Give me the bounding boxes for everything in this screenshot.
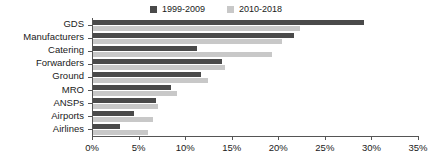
x-axis-tick	[418, 136, 419, 140]
bar-series1	[93, 33, 294, 38]
bar-series2	[93, 65, 225, 70]
category-label: Catering	[0, 45, 84, 55]
x-axis-line	[92, 136, 418, 137]
bar-series1	[93, 111, 134, 116]
chart-legend: 1999-20092010-2018	[0, 2, 432, 16]
category-label: Airports	[0, 111, 84, 121]
bar-series2	[93, 39, 282, 44]
bar-group	[93, 98, 419, 109]
x-axis-tick	[139, 136, 140, 140]
y-axis-tick	[88, 38, 92, 39]
x-axis-tick	[371, 136, 372, 140]
bar-series2	[93, 117, 153, 122]
legend-label: 1999-2009	[162, 5, 205, 14]
y-axis-tick	[88, 51, 92, 52]
category-axis-labels: GDSManufacturersCateringForwardersGround…	[0, 18, 88, 136]
bar-series2	[93, 26, 300, 31]
x-axis-tick-label: 15%	[222, 142, 241, 153]
x-axis-tick-label: 30%	[362, 142, 381, 153]
bar-group	[93, 46, 419, 57]
category-label: Airlines	[0, 124, 84, 134]
legend-swatch-icon	[227, 6, 234, 13]
bar-group	[93, 59, 419, 70]
x-axis-tick	[185, 136, 186, 140]
x-axis-tick	[232, 136, 233, 140]
bar-group	[93, 20, 419, 31]
x-axis-tick-label: 35%	[408, 142, 427, 153]
bar-chart: 1999-20092010-2018 GDSManufacturersCater…	[0, 0, 432, 165]
bar-series2	[93, 78, 208, 83]
category-label: ANSPs	[0, 98, 84, 108]
bar-series2	[93, 104, 158, 109]
bar-group	[93, 85, 419, 96]
bar-group	[93, 72, 419, 83]
bar-series1	[93, 46, 197, 51]
bar-group	[93, 124, 419, 135]
x-axis-tick	[92, 136, 93, 140]
plot-area: 0%5%10%15%20%25%30%35%	[92, 18, 418, 136]
x-axis-tick-label: 5%	[132, 142, 146, 153]
x-axis-tick-label: 25%	[315, 142, 334, 153]
category-label: Forwarders	[0, 58, 84, 68]
bar-series1	[93, 85, 171, 90]
x-axis-tick-label: 10%	[176, 142, 195, 153]
category-label: Manufacturers	[0, 32, 84, 42]
y-axis-tick	[88, 90, 92, 91]
legend-entry: 2010-2018	[227, 5, 282, 14]
bar-series1	[93, 124, 120, 129]
x-axis-tick-label: 0%	[85, 142, 99, 153]
bar-series1	[93, 72, 201, 77]
x-axis-tick	[278, 136, 279, 140]
x-axis-tick	[325, 136, 326, 140]
y-axis-tick	[88, 77, 92, 78]
y-axis-tick	[88, 64, 92, 65]
legend-label: 2010-2018	[239, 5, 282, 14]
x-axis-tick-label: 20%	[269, 142, 288, 153]
category-label: Ground	[0, 71, 84, 81]
y-axis-tick	[88, 129, 92, 130]
bar-series1	[93, 98, 156, 103]
y-axis-tick	[88, 25, 92, 26]
legend-swatch-icon	[150, 6, 157, 13]
legend-entry: 1999-2009	[150, 5, 205, 14]
category-label: GDS	[0, 19, 84, 29]
category-label: MRO	[0, 85, 84, 95]
y-axis-tick	[88, 103, 92, 104]
bar-series2	[93, 130, 148, 135]
bar-series1	[93, 59, 222, 64]
y-axis-tick	[88, 116, 92, 117]
bar-group	[93, 33, 419, 44]
bar-series1	[93, 20, 364, 25]
bar-series2	[93, 91, 177, 96]
bar-series2	[93, 52, 272, 57]
bar-group	[93, 111, 419, 122]
